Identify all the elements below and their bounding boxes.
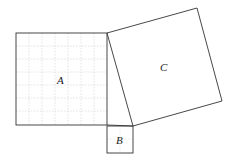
- label-a: A: [56, 74, 64, 86]
- label-c: C: [160, 61, 168, 73]
- pythagoras-diagram: A B C: [0, 0, 232, 163]
- label-b: B: [116, 134, 123, 146]
